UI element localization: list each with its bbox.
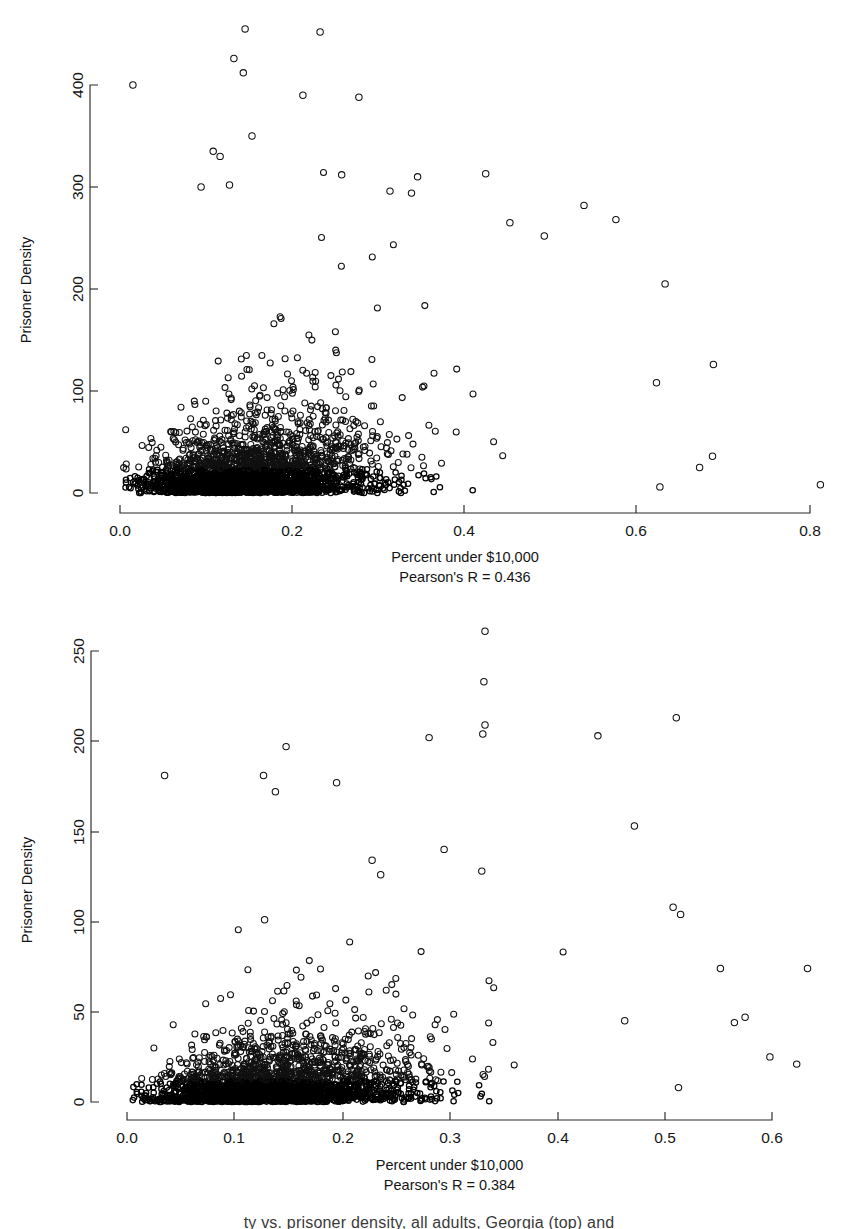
data-point (284, 982, 290, 988)
data-point (245, 1020, 251, 1026)
data-point (158, 444, 164, 450)
data-point-notable (240, 70, 246, 76)
data-point (306, 958, 312, 964)
data-point-notable (378, 872, 384, 878)
data-point (319, 235, 325, 241)
data-point (298, 974, 304, 980)
x-tick-label: 0.5 (654, 1129, 676, 1146)
data-point (332, 329, 338, 335)
data-point (282, 394, 288, 400)
data-point-notable (696, 464, 702, 470)
data-point-notable (198, 184, 204, 190)
data-point (421, 1056, 427, 1062)
data-point (401, 1006, 407, 1012)
data-point-notable (317, 29, 323, 35)
data-point-notable (480, 731, 486, 737)
y-tick-label: 300 (69, 174, 86, 200)
data-point (260, 385, 266, 391)
data-point (491, 439, 497, 445)
data-point (222, 385, 228, 391)
data-point (409, 1036, 415, 1042)
data-point-notable (283, 743, 289, 749)
data-point (486, 978, 492, 984)
data-point (258, 1017, 264, 1023)
y-tick-label: 200 (70, 728, 87, 754)
data-point (267, 360, 273, 366)
data-point-notable (249, 133, 255, 139)
data-point (442, 1027, 448, 1033)
data-point (333, 422, 339, 428)
data-point (369, 356, 375, 362)
data-point-notable (631, 823, 637, 829)
data-points-layer (130, 628, 811, 1105)
data-point (422, 303, 428, 309)
data-point-notable (242, 26, 248, 32)
data-point (369, 254, 375, 260)
data-point (149, 1077, 155, 1083)
data-point-notable (226, 182, 232, 188)
data-point (386, 432, 392, 438)
data-point-notable (356, 94, 362, 100)
data-point (271, 321, 277, 327)
data-point (192, 429, 198, 435)
data-point-notable (709, 453, 715, 459)
data-point (421, 383, 427, 389)
data-point (203, 1001, 209, 1007)
data-point (343, 997, 349, 1003)
data-point (486, 1020, 492, 1026)
data-point (178, 404, 184, 410)
data-point (247, 411, 253, 417)
data-point-notable (369, 857, 375, 863)
data-point (314, 992, 320, 998)
x-tick-label: 0.3 (439, 1129, 461, 1146)
data-point (394, 1060, 400, 1066)
data-point (220, 1028, 226, 1034)
data-point (433, 1077, 439, 1083)
data-point (362, 423, 368, 429)
data-point (192, 1031, 198, 1037)
data-point (280, 1021, 286, 1027)
data-point (215, 358, 221, 364)
data-point-notable (481, 679, 487, 685)
data-point (476, 1083, 481, 1088)
data-point-notable (817, 482, 823, 488)
data-point (486, 1066, 492, 1072)
data-point-notable (653, 380, 659, 386)
y-axis-title: Prisoner Density (19, 836, 35, 943)
data-point-notable (339, 172, 345, 178)
data-point (360, 1014, 366, 1020)
data-point-notable (670, 904, 676, 910)
data-point (367, 1044, 373, 1050)
data-point (470, 488, 475, 493)
data-point (213, 1030, 219, 1036)
data-point-notable (479, 868, 485, 874)
data-point (333, 1020, 339, 1026)
data-point (431, 489, 436, 494)
data-point (262, 1009, 268, 1015)
data-point (237, 433, 243, 439)
data-point (426, 422, 432, 428)
y-tick-label: 50 (70, 1003, 87, 1021)
data-point (470, 1056, 476, 1062)
data-point (383, 987, 389, 993)
data-point (229, 1030, 235, 1036)
data-point-notable (408, 190, 414, 196)
data-point (136, 464, 142, 470)
data-point (560, 949, 566, 955)
data-point (395, 460, 401, 466)
data-point (393, 470, 398, 475)
data-point (139, 442, 145, 448)
data-point (333, 986, 339, 992)
scatter-panel-bottom: 0.00.10.20.30.40.50.6050100150200250Pris… (0, 600, 858, 1214)
data-point (327, 1001, 333, 1007)
data-point-notable (613, 216, 619, 222)
data-point (245, 967, 251, 973)
data-point (281, 988, 287, 994)
data-point-notable (333, 780, 339, 786)
data-point (270, 998, 276, 1004)
data-point (213, 408, 219, 414)
data-point-notable (622, 1018, 628, 1024)
data-point (235, 927, 241, 933)
data-point (341, 407, 347, 413)
x-tick-label: 0.1 (223, 1129, 245, 1146)
